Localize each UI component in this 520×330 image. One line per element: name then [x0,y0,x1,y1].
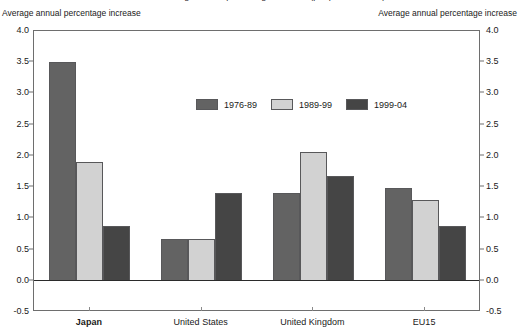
legend-swatch-icon [346,99,368,110]
legend-label: 1999-04 [374,100,407,110]
legend-item-1976-89: 1976-89 [196,99,257,110]
y-tick-label-left: 1.0 [4,213,29,222]
y-tick-label-right: 1.0 [486,213,514,222]
bar-japan-1999-04 [103,226,130,281]
bar-japan-1976-89 [49,62,76,281]
plot-area [34,31,479,310]
y-tick-mark [480,92,484,93]
y-tick-label-right: 3.5 [486,57,514,66]
bar-united-states-1976-89 [161,239,188,281]
category-label-united-states: United States [174,317,228,327]
y-tick-mark [480,61,484,62]
y-tick-label-right: 3.0 [486,88,514,97]
chart-legend: 1976-891989-991999-04 [196,99,407,110]
category-tick [312,307,313,311]
y-tick-label-right: 2.5 [486,119,514,128]
legend-label: 1989-99 [299,100,332,110]
bar-eu15-1976-89 [385,188,412,281]
legend-label: 1976-89 [224,100,257,110]
y-tick-label-right: -0.5 [486,307,514,316]
y-tick-mark [480,154,484,155]
chart-title: Chart: average annual percentage increas… [0,0,520,2]
bar-united-kingdom-1999-04 [327,176,354,281]
legend-item-1989-99: 1989-99 [271,99,332,110]
y-tick-mark [480,248,484,249]
y-tick-label-right: 0.0 [486,275,514,284]
bar-eu15-1999-04 [439,226,466,281]
bar-united-states-1989-99 [188,239,215,281]
y-tick-mark [480,186,484,187]
bar-united-kingdom-1989-99 [300,152,327,281]
bar-eu15-1989-99 [412,200,439,281]
legend-swatch-icon [196,99,218,110]
y-tick-label-right: 2.0 [486,150,514,159]
y-tick-label-left: 2.0 [4,150,29,159]
y-tick-label-left: 4.0 [4,26,29,35]
y-tick-label-right: 1.5 [486,182,514,191]
bar-united-kingdom-1976-89 [273,193,300,280]
category-tick [424,307,425,311]
y-tick-label-left: 0.0 [4,275,29,284]
y-tick-label-left: 0.5 [4,244,29,253]
y-tick-label-left: 3.5 [4,57,29,66]
category-tick [89,307,90,311]
y-tick-label-left: -0.5 [4,307,29,316]
category-label-japan: Japan [76,317,102,327]
category-tick [201,307,202,311]
y-tick-label-left: 1.5 [4,182,29,191]
zero-baseline [34,280,479,281]
right-axis-caption: Average annual percentage increase [378,8,517,18]
legend-swatch-icon [271,99,293,110]
y-tick-mark [480,279,484,280]
y-tick-label-left: 2.5 [4,119,29,128]
category-label-united-kingdom: United Kingdom [280,317,344,327]
y-tick-mark [480,217,484,218]
bar-japan-1989-99 [76,162,103,281]
y-tick-label-right: 0.5 [486,244,514,253]
y-tick-label-right: 4.0 [486,26,514,35]
plot-frame [33,30,480,311]
y-tick-label-left: 3.0 [4,88,29,97]
bar-united-states-1999-04 [215,193,242,280]
left-axis-caption: Average annual percentage increase [2,8,141,18]
legend-item-1999-04: 1999-04 [346,99,407,110]
y-tick-mark [480,123,484,124]
category-label-eu15: EU15 [413,317,436,327]
